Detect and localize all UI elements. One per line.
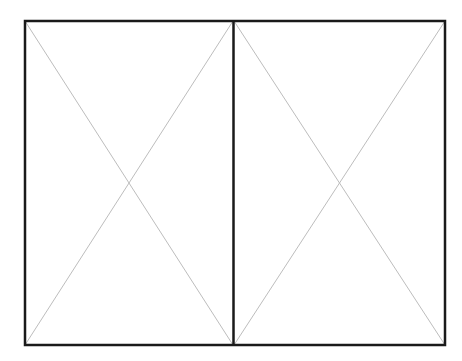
right-image-placeholder [234,21,445,345]
placeholder-graphics [0,0,462,361]
outer-border [25,21,445,345]
left-image-placeholder [25,21,233,345]
placeholder-frame [24,20,446,346]
